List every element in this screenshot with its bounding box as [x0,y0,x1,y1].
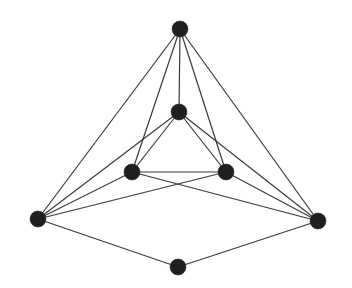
edge-center-left [38,112,179,219]
edges-layer [38,29,318,267]
node-bottom [170,259,186,275]
edge-right-bottom [178,221,318,267]
edge-top-right [180,29,318,221]
edge-top-center [179,29,180,112]
node-center [171,104,187,120]
node-right [310,213,326,229]
edge-center-right-mid [179,112,226,172]
edge-top-left [38,29,180,219]
node-left [30,211,46,227]
node-top [172,21,188,37]
edge-left-left-mid [38,172,132,219]
graph-diagram [0,0,352,288]
node-right-mid [218,164,234,180]
edge-top-right-mid [180,29,226,172]
edge-right-right-mid [226,172,318,221]
nodes-layer [30,21,326,275]
edge-top-left-mid [132,29,180,172]
node-left-mid [124,164,140,180]
edge-left-bottom [38,219,178,267]
edge-center-right [179,112,318,221]
